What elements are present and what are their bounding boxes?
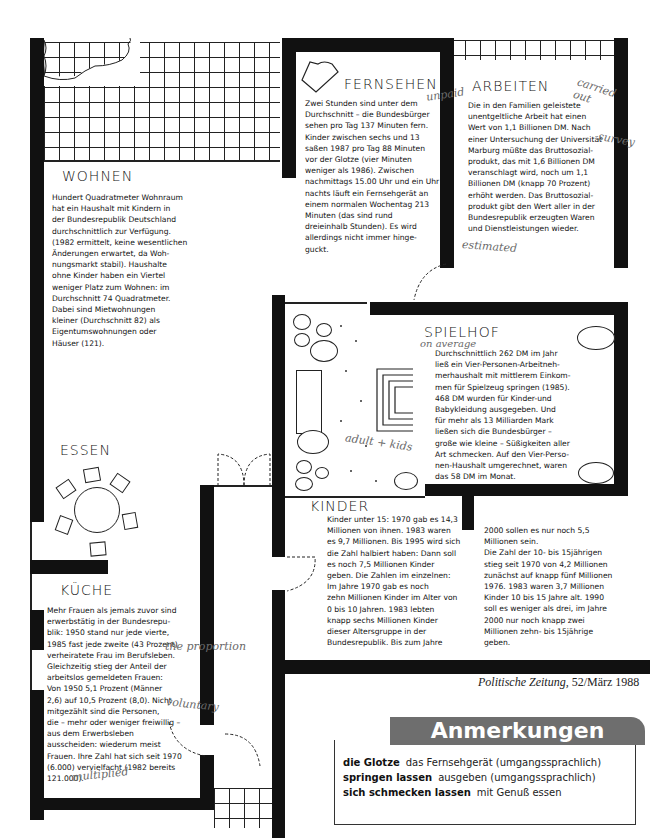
- climbing-frame-icon: [375, 365, 415, 435]
- wall-fernsehen-top: [282, 38, 442, 52]
- chair: [89, 541, 106, 556]
- note-on-average: on average: [420, 338, 476, 349]
- spielhof-top-thin: [285, 302, 367, 304]
- chair: [55, 515, 74, 535]
- room-title-kueche: KÜCHE: [60, 582, 113, 598]
- anmerkung-entry: sich schmecken lassenmit Genuß essen: [343, 787, 562, 798]
- bush: [293, 314, 311, 330]
- chair: [55, 479, 76, 500]
- door-arc-kinder: [285, 555, 325, 595]
- anmerkung-definition: ausgeben (umgangssprachlich): [438, 772, 595, 783]
- wall-spielhof-bottom: [425, 484, 628, 496]
- wall-center-lower: [272, 590, 285, 838]
- bush: [578, 462, 614, 484]
- terrace-grid-right: [450, 40, 615, 60]
- anmerkung-term: die Glotze: [343, 757, 400, 768]
- wall-center: [272, 295, 285, 557]
- floor-grid-bottom: [214, 788, 272, 828]
- gravel-dot: [360, 400, 362, 402]
- wall-left: [30, 120, 44, 522]
- bush: [294, 333, 310, 347]
- gravel-dot: [340, 325, 342, 327]
- bush: [310, 340, 338, 362]
- double-door-icon: [214, 450, 274, 490]
- room-text-kinder-col2: 2000 sollen es nur noch 5,5 Millionen se…: [484, 525, 619, 648]
- tv-icon: [298, 58, 342, 94]
- chair: [109, 473, 130, 494]
- gravel-dot: [350, 470, 352, 472]
- source-citation: Politische Zeitung, 52/März 1988: [478, 675, 639, 690]
- wall-left-upper: [30, 38, 44, 122]
- room-title-wohnen: WOHNEN: [62, 168, 133, 184]
- bush: [295, 477, 313, 491]
- source-publication: Politische Zeitung,: [478, 675, 569, 689]
- room-title-arbeiten: ARBEITEN: [472, 78, 549, 94]
- anmerkung-term: sich schmecken lassen: [343, 787, 471, 798]
- wall-kinder-bottom: [285, 660, 650, 674]
- note-the-proportion: the proportion: [165, 640, 246, 653]
- hedge-outline: [40, 36, 140, 86]
- wall-fernsehen-left: [282, 38, 296, 178]
- bush: [394, 472, 418, 490]
- anmerkung-entry: die Glotzedas Fernsehgerät (umgangssprac…: [343, 757, 601, 768]
- room-title-essen: ESSEN: [60, 442, 111, 458]
- wall-kitchen-top: [30, 560, 108, 574]
- bush: [297, 430, 329, 454]
- chair: [122, 512, 139, 530]
- source-issue: 52/März 1988: [572, 675, 640, 689]
- anmerkung-definition: mit Genuß essen: [477, 787, 562, 798]
- wall-kitchen-bottom: [30, 798, 212, 810]
- gravel-dot: [355, 340, 357, 342]
- door-arc-fernsehen: [400, 262, 450, 302]
- room-text-fernsehen: Zwei Stunden sind unter dem Durchschnitt…: [305, 98, 445, 255]
- anmerkungen-title: Anmerkungen: [390, 717, 645, 745]
- dining-table: [74, 487, 120, 533]
- wall-kitchen-left-1: [30, 610, 44, 650]
- wall-right: [614, 302, 628, 496]
- bush: [316, 323, 332, 337]
- anmerkung-definition: das Fernsehgerät (umgangssprachlich): [406, 757, 601, 768]
- gravel-dot: [375, 480, 377, 482]
- room-text-kinder-col1: Kinder unter 15: 1970 gab es 14,3 Millio…: [327, 514, 477, 648]
- bush: [296, 460, 312, 474]
- room-text-kueche: Mehr Frauen als jemals zuvor sind erwerb…: [47, 605, 207, 784]
- sandbox: [296, 370, 322, 434]
- anmerkung-term: springen lassen: [343, 772, 432, 783]
- wall-spielhof-top: [370, 302, 628, 315]
- anmerkung-entry: springen lassenausgeben (umgangssprachli…: [343, 772, 596, 783]
- bush: [577, 326, 615, 350]
- room-text-spielhof: Durchschnittlich 262 DM im Jahr ließ ein…: [435, 348, 580, 482]
- wall-arbeiten-right: [614, 38, 628, 268]
- gravel-dot: [345, 370, 347, 372]
- room-text-arbeiten: Die in den Familien geleistete unentgelt…: [468, 100, 613, 234]
- note-estimated: estimated: [462, 238, 518, 255]
- chair: [83, 467, 101, 484]
- bush: [315, 467, 329, 479]
- room-title-kinder: KINDER: [310, 498, 369, 514]
- gravel-dot: [340, 420, 342, 422]
- terrace-bottom-edge: [44, 160, 280, 162]
- room-text-wohnen: Hundert Quadratmeter Wohnraum hat ein Ha…: [52, 192, 222, 349]
- room-title-fernsehen: FERNSEHEN: [344, 76, 438, 92]
